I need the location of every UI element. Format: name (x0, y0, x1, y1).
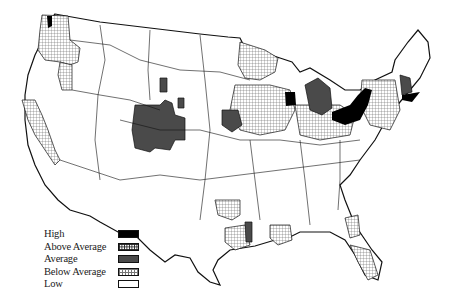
region-florida-south (350, 245, 378, 280)
legend-label: High (44, 228, 64, 240)
legend-item-high: High (44, 228, 144, 241)
legend-item-above-average: Above Average (44, 241, 144, 254)
region-co-small (178, 98, 184, 108)
legend-swatch-average (118, 255, 139, 263)
map-legend: High Above Average Average Below Average… (44, 228, 144, 291)
legend-swatch-low (118, 280, 139, 288)
legend-label: Above Average (44, 241, 106, 253)
legend-swatch-above-average (118, 243, 139, 251)
legend-item-average: Average (44, 253, 144, 266)
region-louisiana (270, 225, 292, 245)
legend-item-low: Low (44, 278, 144, 291)
region-beaumont-average (245, 222, 252, 242)
legend-item-below-average: Below Average (44, 266, 144, 279)
legend-swatch-below-average (118, 268, 139, 276)
legend-label: Below Average (44, 266, 106, 278)
legend-label: Low (44, 278, 63, 290)
legend-swatch-high (118, 230, 139, 238)
region-new-england-average (400, 75, 412, 95)
legend-label: Average (44, 253, 77, 265)
region-wyoming-strip (160, 78, 167, 92)
region-chicago-high (285, 92, 296, 106)
